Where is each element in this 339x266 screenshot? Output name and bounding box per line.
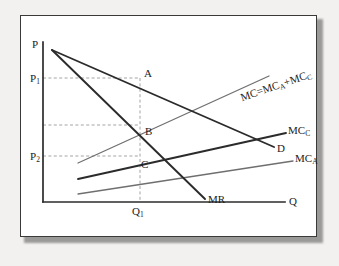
curve-mc-total <box>78 76 269 163</box>
curve-label-mc-a: MCA <box>295 153 318 165</box>
mc-a-sub: A <box>312 157 317 166</box>
figure-frame: P Q P1 P2 Q1 A B C MC=MCA+MCC MCC D <box>20 15 317 237</box>
point-label-c: C <box>141 159 148 170</box>
curve-marginal-revenue <box>52 50 205 199</box>
point-label-b: B <box>145 126 152 137</box>
curve-label-mc-c: MCC <box>288 125 310 137</box>
curve-label-demand: D <box>277 143 285 154</box>
x-tick-q1-text: Q1 <box>132 205 144 217</box>
curve-label-marginal-revenue: MR <box>208 194 225 205</box>
y-axis-top-label: P <box>32 39 38 50</box>
figure-page: P Q P1 P2 Q1 A B C MC=MCA+MCC MCC D <box>0 0 339 266</box>
y-tick-label-p1: P1 <box>30 73 40 85</box>
y-tick-label-p2: P2 <box>30 151 40 163</box>
x-tick-label-q1: Q1 <box>132 206 144 218</box>
mc-c-sub: C <box>305 129 310 138</box>
y-tick-p1-base: P1 <box>30 72 40 84</box>
x-axis-right-label: Q <box>289 196 297 207</box>
mc-c-base: MC <box>288 124 305 136</box>
y-tick-p2-base: P2 <box>30 150 40 162</box>
reference-lines <box>43 78 140 202</box>
mc-a-base: MC <box>295 152 312 164</box>
curve-mc-a <box>78 161 293 194</box>
point-label-a: A <box>144 68 152 79</box>
economics-diagram-plot <box>21 16 318 238</box>
